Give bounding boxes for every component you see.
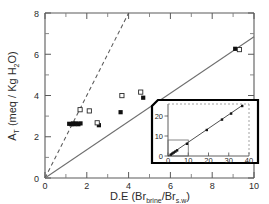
y-axis-title-rest: (meq / Kg H [6, 67, 18, 129]
inset-x-tick-label: 10 [184, 156, 192, 165]
inset-data-point [206, 129, 208, 131]
inset-data-point [221, 118, 223, 120]
inset-data-point [230, 112, 232, 114]
x-tick-label: 2 [84, 181, 89, 191]
data-point [78, 121, 82, 125]
y-tick-label: 8 [34, 9, 39, 19]
inset-y-tick-label: 0 [159, 152, 163, 161]
data-point [119, 110, 123, 114]
data-point [237, 48, 241, 52]
inset-x-tick-label: 0 [166, 156, 170, 165]
inset-x-tick-label: 40 [245, 156, 253, 165]
y-axis-title-end: O) [6, 51, 18, 63]
inset-x-tick-label: 30 [225, 156, 233, 165]
y-tick-label: 0 [34, 174, 39, 184]
data-point [95, 121, 99, 125]
inset-panel: 0 10 20 0 10 20 30 40 [152, 100, 258, 165]
inset-data-point [241, 105, 243, 107]
scatter-chart-figure: 0 2 4 6 8 [0, 0, 269, 204]
x-tick-label: 0 [42, 181, 47, 191]
y-tick-label: 4 [34, 91, 39, 101]
x-tick-label: 8 [210, 181, 215, 191]
inset-data-point [186, 143, 188, 145]
chart-svg: 0 2 4 6 8 [0, 0, 269, 204]
data-point [139, 90, 143, 94]
data-point [233, 47, 237, 51]
data-point [120, 94, 124, 98]
inset-x-tick-label: 20 [204, 156, 212, 165]
data-point [78, 108, 82, 112]
y-tick-label: 6 [34, 50, 39, 60]
data-point [141, 96, 145, 100]
x-tick-label: 10 [249, 181, 259, 191]
inset-y-tick-label: 20 [155, 112, 163, 121]
inset-data-point [176, 149, 178, 151]
data-point [87, 109, 91, 113]
x-axis-title-main: D.E (Br [110, 190, 146, 202]
inset-y-tick-label: 10 [155, 132, 163, 141]
x-axis-title-mid: /Br [162, 190, 176, 202]
y-tick-label: 2 [34, 132, 39, 142]
x-axis-title-sub-brine: brine [146, 197, 162, 204]
x-axis-title-close: ) [186, 190, 190, 202]
